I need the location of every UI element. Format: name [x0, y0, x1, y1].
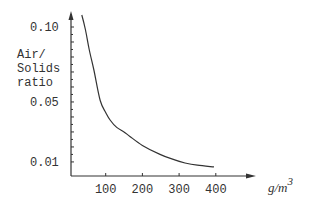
y-tick-label: 0.05 [30, 96, 59, 110]
x-tick-label: 100 [95, 183, 117, 197]
axes [71, 14, 252, 176]
y-axis-arrow-icon [69, 11, 74, 20]
y-axis-label-line-3: ratio [17, 76, 53, 90]
x-axis-arrow-icon [246, 174, 256, 179]
y-tick-label: 0.10 [30, 21, 59, 35]
y-axis-tick-labels: 0.100.050.01 [30, 21, 59, 170]
y-axis-label-line-1: Air/ [17, 48, 46, 62]
air-solids-ratio-chart: Air/ Solids ratio 0.100.050.01 100200300… [0, 0, 315, 210]
y-axis-label-line-2: Solids [17, 62, 60, 76]
y-axis-label: Air/ Solids ratio [17, 48, 60, 90]
x-axis-label-base: g/m [268, 180, 288, 195]
y-tick-label: 0.01 [30, 156, 59, 170]
x-tick-label: 200 [132, 183, 154, 197]
x-axis-label-exponent: 3 [287, 175, 294, 187]
data-curve [82, 15, 214, 167]
x-tick-label: 400 [205, 183, 227, 197]
x-axis-label: g/m3 [268, 175, 294, 195]
x-tick-label: 300 [168, 183, 190, 197]
x-axis-tick-labels: 100200300400 [95, 183, 227, 197]
